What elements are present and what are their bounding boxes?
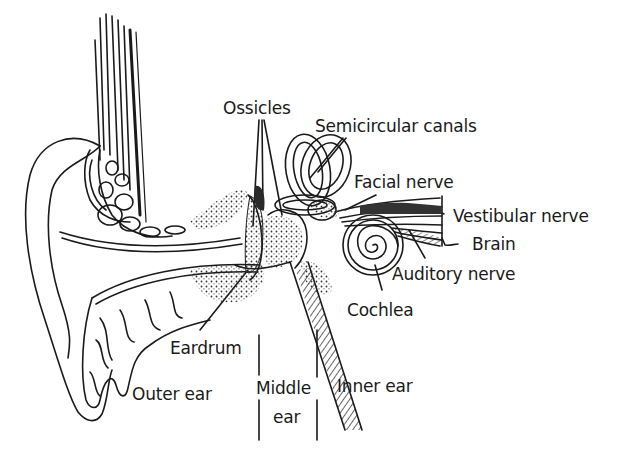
label-eardrum: Eardrum bbox=[170, 340, 242, 357]
label-outer-ear: Outer ear bbox=[132, 386, 212, 403]
label-ossicles: Ossicles bbox=[223, 100, 291, 117]
ear-anatomy-diagram: Ossicles Semicircular canals Facial nerv… bbox=[0, 0, 628, 464]
label-brain: Brain bbox=[472, 236, 516, 253]
label-semicircular-canals: Semicircular canals bbox=[315, 118, 477, 135]
ear-illustration bbox=[0, 0, 628, 464]
label-inner-ear: Inner ear bbox=[337, 378, 412, 395]
label-auditory-nerve: Auditory nerve bbox=[392, 266, 515, 283]
label-facial-nerve: Facial nerve bbox=[354, 174, 454, 191]
ear-canal-upper bbox=[60, 232, 240, 246]
label-middle-ear-line2: ear bbox=[273, 409, 300, 426]
label-middle-ear-line1: Middle bbox=[256, 380, 311, 397]
label-cochlea: Cochlea bbox=[347, 302, 414, 319]
label-vestibular-nerve: Vestibular nerve bbox=[453, 208, 589, 225]
